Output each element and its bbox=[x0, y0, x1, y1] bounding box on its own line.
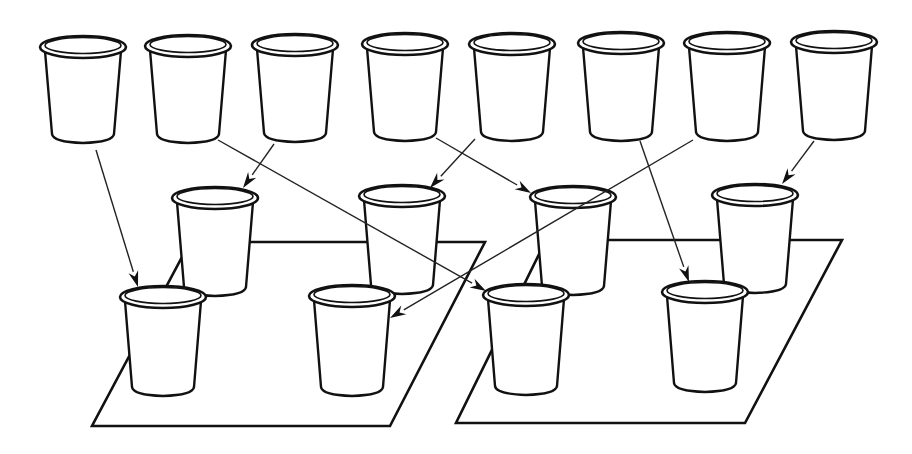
cup-top-4 bbox=[362, 33, 448, 141]
cup-top-1 bbox=[40, 36, 126, 143]
cup-right-front-2 bbox=[662, 281, 748, 392]
cup-right-front-1 bbox=[483, 284, 569, 395]
cup-left-back-1 bbox=[172, 187, 258, 296]
cup-rim-inner bbox=[257, 36, 333, 52]
cup-top-7 bbox=[684, 32, 770, 141]
cup-rim-inner bbox=[364, 187, 440, 203]
arrow-line bbox=[792, 141, 814, 171]
arrow-head-icon bbox=[782, 168, 796, 184]
cup-top-3 bbox=[252, 34, 338, 142]
cup-rim-inner bbox=[150, 37, 226, 53]
cup-rim-inner bbox=[796, 33, 872, 49]
diagram-canvas bbox=[0, 0, 912, 454]
cup-body bbox=[535, 201, 611, 295]
arrow-head-icon bbox=[515, 181, 531, 193]
arrow-line bbox=[436, 138, 517, 185]
cup-top-6 bbox=[578, 32, 664, 141]
arrow-top-8-to-right-back-2 bbox=[782, 141, 814, 184]
cup-body bbox=[314, 300, 390, 396]
cup-rim-inner bbox=[45, 38, 121, 54]
cup-rim-inner bbox=[717, 186, 793, 202]
cup-body bbox=[150, 50, 226, 143]
cup-rim-inner bbox=[488, 286, 564, 302]
cup-rim-inner bbox=[583, 34, 659, 50]
arrow-line bbox=[96, 150, 133, 272]
cup-left-front-2 bbox=[309, 285, 395, 396]
cup-rim-inner bbox=[367, 35, 443, 51]
arrow-top-3-to-left-back-1 bbox=[243, 144, 274, 188]
cup-top-5 bbox=[469, 33, 555, 141]
arrow-head-icon bbox=[470, 279, 486, 291]
cup-rim-inner bbox=[125, 288, 201, 304]
arrow-top-1-to-left-front-1 bbox=[96, 150, 138, 287]
cup-body bbox=[125, 301, 201, 396]
arrow-head-icon bbox=[129, 270, 139, 287]
cup-body bbox=[367, 48, 443, 141]
cup-rim-inner bbox=[314, 287, 390, 303]
cup-top-2 bbox=[145, 35, 231, 143]
cup-right-back-1 bbox=[530, 186, 616, 295]
arrow-top-5-to-left-back-2 bbox=[430, 139, 475, 188]
cup-left-back-2 bbox=[359, 185, 445, 294]
cup-rim-inner bbox=[474, 35, 550, 51]
cup-body bbox=[689, 47, 765, 141]
cup-rim-inner bbox=[667, 283, 743, 299]
cup-body bbox=[583, 47, 659, 141]
cup-rim-inner bbox=[177, 189, 253, 205]
cup-body bbox=[717, 199, 793, 293]
arrow-head-icon bbox=[243, 172, 256, 188]
cup-body bbox=[45, 51, 121, 143]
cup-body bbox=[364, 200, 440, 294]
cup-left-front-1 bbox=[120, 286, 206, 396]
source-cups-row bbox=[40, 31, 877, 143]
cup-distribution-diagram bbox=[0, 0, 912, 454]
cup-body bbox=[474, 48, 550, 141]
cup-body bbox=[796, 46, 872, 140]
cup-rim-inner bbox=[689, 34, 765, 50]
cup-top-8 bbox=[791, 31, 877, 140]
cup-body bbox=[257, 49, 333, 142]
cup-body bbox=[177, 202, 253, 296]
cup-right-back-2 bbox=[712, 184, 798, 293]
cup-body bbox=[667, 296, 743, 392]
cup-body bbox=[488, 299, 564, 395]
